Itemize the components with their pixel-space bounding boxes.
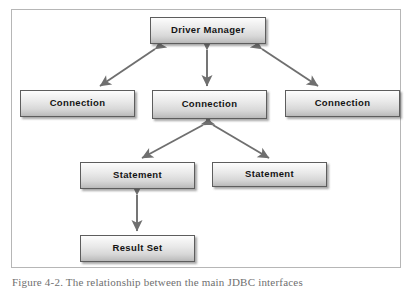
figure-caption: Figure 4-2. The relationship between the… [12,276,408,288]
node-label: Statement [245,169,294,179]
node-statement-2: Statement [212,162,327,187]
node-connection-2: Connection [152,90,267,119]
node-label: Driver Manager [171,25,245,35]
diagram-frame [11,9,401,268]
node-label: Connection [182,99,238,109]
node-label: Connection [50,98,106,108]
node-statement-1: Statement [80,162,195,189]
node-connection-3: Connection [285,90,400,117]
node-driver-manager: Driver Manager [150,17,266,44]
node-connection-1: Connection [20,90,135,117]
node-result-set: Result Set [80,235,195,262]
node-label: Connection [315,98,371,108]
node-label: Statement [113,170,162,180]
node-label: Result Set [113,243,163,253]
